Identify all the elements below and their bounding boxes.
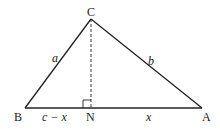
triangle-diagram: C B N A a b c − x x xyxy=(0,0,220,129)
segment-label-NA: x xyxy=(145,110,152,124)
side-a xyxy=(25,19,91,108)
side-b xyxy=(91,19,202,108)
side-label-b: b xyxy=(148,54,154,68)
right-angle-marker xyxy=(83,100,91,108)
vertex-label-A: A xyxy=(202,110,211,124)
segment-label-BN: c − x xyxy=(42,110,67,124)
vertex-label-C: C xyxy=(87,5,95,19)
side-label-a: a xyxy=(52,51,58,65)
vertex-label-B: B xyxy=(14,110,22,124)
vertex-label-N: N xyxy=(86,110,95,124)
